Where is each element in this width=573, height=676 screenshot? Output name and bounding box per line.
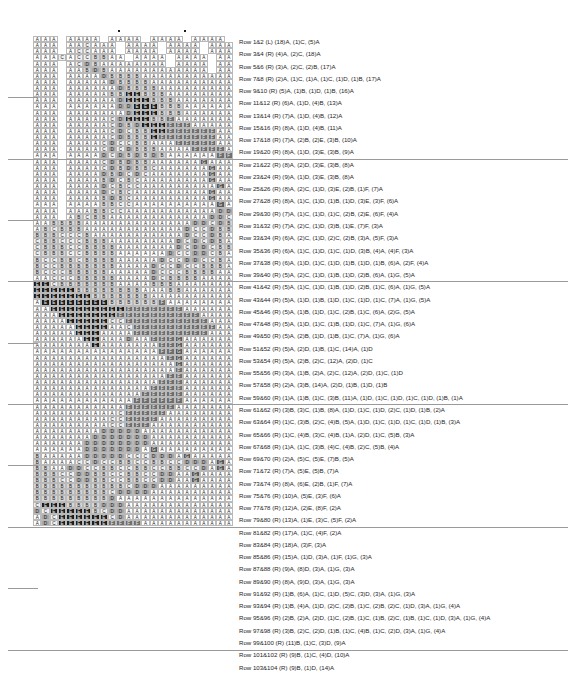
section-divider xyxy=(8,588,38,589)
grid-cell-A[interactable]: A xyxy=(183,520,191,526)
instruction-line: Row 29&30 (R) (7)A, (1)C, (1)D, (1)C, (2… xyxy=(239,208,573,220)
section-divider xyxy=(8,97,38,98)
grid-cell-A[interactable]: A xyxy=(225,520,233,526)
instruction-line: Row 33&34 (R) (6)A, (2)C, (1)D, (2)C, (2… xyxy=(239,232,573,244)
instruction-line: Row 89&90 (R) (8)A, (9)D, (3)A, (1)G, (3… xyxy=(239,576,573,588)
instruction-line: Row 101&102 (R) (9)B, (1)C, (4)D, (10)A xyxy=(239,649,573,661)
instruction-line: Row 43&44 (R) (5)A, (1)D, (1)B, (1)D, (1… xyxy=(239,294,573,306)
grid-row: ADCEEEEEEFFFFAAAAAAAAAAA xyxy=(33,520,233,526)
instruction-line: Row 7&8 (R) (2)A, (1)C, (1)A, (1)C, (1)D… xyxy=(239,73,573,85)
pattern-chart-page: AAAAAAAAAAAAAAAAAAAAAAAACAAAAAAAAAAAAAAA… xyxy=(0,0,573,676)
instruction-line: Row 23&24 (R) (9)A, (1)D, (3)E, (3)B, (8… xyxy=(239,171,573,183)
instruction-list: Row 1&2 (L) (18)A, (1)C, (5)ARow 3&4 (R)… xyxy=(239,36,573,676)
instruction-line: Row 75&76 (R) (10)A, (5)E, (3)F, (6)A xyxy=(239,490,573,502)
grid-cell-E[interactable]: E xyxy=(58,520,66,526)
instruction-line: Row 15&16 (R) (8)A, (1)D, (4)B, (11)A xyxy=(239,122,573,134)
instruction-line: Row 3&4 (R) (4)A, (2)C, (18)A xyxy=(239,48,573,60)
instruction-line: Row 55&56 (R) (3)A, (1)B, (2)A, (2)C, (1… xyxy=(239,367,573,379)
instruction-line: Row 47&48 (R) (5)A, (1)D, (1)C, (1)B, (1… xyxy=(239,318,573,330)
instruction-line: Row 65&66 (R) (1)C, (4)B, (3)C, (4)B, (1… xyxy=(239,429,573,441)
instruction-line: Row 45&46 (R) (5)A, (1)B, (1)D, (1)C, (2… xyxy=(239,306,573,318)
instruction-line: Row 93&94 (R) (1)B, (4)A, (1)D, (2)C, (2… xyxy=(239,600,573,612)
instruction-line: Row 13&14 (R) (7)A, (1)D, (4)B, (12)A xyxy=(239,110,573,122)
instruction-line: Row 35&36 (R) (6)A, (1)C, (1)D, (1)C, (1… xyxy=(239,245,573,257)
instruction-line: Row 51&52 (R) (5)A, (2)D, (1)B, (1)C, (1… xyxy=(239,343,573,355)
grid-cell-D[interactable]: D xyxy=(41,520,49,526)
instruction-line: Row 87&88 (R) (9)A, (8)D, (3)A, (1)G, (3… xyxy=(239,563,573,575)
instruction-line: Row 91&92 (R) (1)B, (6)A, (1)C, (1)D, (5… xyxy=(239,588,573,600)
section-divider xyxy=(8,220,38,221)
instruction-line: Row 63&64 (R) (1)C, (3)B, (2)C, (4)B, (5… xyxy=(239,416,573,428)
instruction-line: Row 17&18 (R) (7)A, (2)B, (2)E, (3)B, (1… xyxy=(239,134,573,146)
instruction-line: Row 69&70 (R) (2)A, (5)C, (5)E, (7)B, (5… xyxy=(239,453,573,465)
instruction-line: Row 97&98 (R) (3)B, (2)C, (2)D, (1)B, (1… xyxy=(239,625,573,637)
instruction-line: Row 59&60 (R) (1)A, (1)B, (1)C, (3)B, (1… xyxy=(239,392,573,404)
grid-cell-A[interactable]: A xyxy=(200,520,208,526)
section-divider xyxy=(8,465,38,466)
instruction-line: Row 77&78 (R) (12)A, (2)E, (8)F, (2)A xyxy=(239,502,573,514)
instruction-line: Row 103&104 (R) (9)B, (1)D, (14)A xyxy=(239,662,573,674)
grid-cell-A[interactable]: A xyxy=(141,520,149,526)
instruction-line: Row 11&12 (R) (6)A, (1)D, (4)B, (13)A xyxy=(239,97,573,109)
grid-cell-A[interactable]: A xyxy=(33,520,41,526)
grid-cell-E[interactable]: E xyxy=(91,520,99,526)
instruction-line: Row 67&68 (R) (1)A, (1)C, (3)B, (4)C, (4… xyxy=(239,441,573,453)
instruction-line: Row 73&74 (R) (8)A, (6)E, (2)B, (1)F, (7… xyxy=(239,478,573,490)
chart-marker-left xyxy=(118,30,120,32)
instruction-line: Row 37&38 (R) (6)A, (1)D, (1)C, (1)D, (1… xyxy=(239,257,573,269)
instruction-line: Row 27&28 (R) (8)A, (1)C, (1)D, (1)B, (1… xyxy=(239,195,573,207)
instruction-line: Row 95&96 (R) (2)B, (2)A, (2)D, (1)C, (2… xyxy=(239,612,573,624)
grid-cell-E[interactable]: E xyxy=(83,520,91,526)
grid-cell-A[interactable]: A xyxy=(175,520,183,526)
instruction-line: Row 99&100 (R) (11)B, (1)C, (3)D, (9)A xyxy=(239,637,573,649)
grid-cell-A[interactable]: A xyxy=(216,520,224,526)
grid-cell-A[interactable]: A xyxy=(158,520,166,526)
instruction-line: Row 21&22 (R) (8)A, (2)D, (3)E, (3)B, (8… xyxy=(239,159,573,171)
section-divider xyxy=(8,343,38,344)
grid-cell-E[interactable]: E xyxy=(66,520,74,526)
grid-cell-F[interactable]: F xyxy=(133,520,141,526)
instruction-line: Row 71&72 (R) (7)A, (5)E, (5)B, (7)A xyxy=(239,465,573,477)
grid-cell-E[interactable]: E xyxy=(100,520,108,526)
instruction-line: Row 1&2 (L) (18)A, (1)C, (5)A xyxy=(239,36,573,48)
grid-cell-C[interactable]: C xyxy=(50,520,58,526)
instruction-line: Row 5&6 (R) (3)A, (2)C, (2)B, (17)A xyxy=(239,61,573,73)
instruction-line: Row 61&62 (R) (3)B, (3)C, (1)B, (8)A, (1… xyxy=(239,404,573,416)
instruction-line: Row 19&20 (R) (8)A, (1)D, (3)E, (3)B, (9… xyxy=(239,146,573,158)
instruction-line: Row 9&10 (R) (5)A, (1)B, (1)D, (1)B, (16… xyxy=(239,85,573,97)
instruction-line: Row 41&42 (R) (5)A, (1)C, (1)D, (1)B, (1… xyxy=(239,281,573,293)
grid-cell-F[interactable]: F xyxy=(108,520,116,526)
instruction-line: Row 85&86 (R) (15)A, (1)D, (3)A, (1)F, (… xyxy=(239,551,573,563)
grid-cell-F[interactable]: F xyxy=(125,520,133,526)
pattern-grid[interactable]: AAAAAAAAAAAAAAAAAAAAAAAACAAAAAAAAAAAAAAA… xyxy=(33,36,233,660)
instruction-line: Row 31&32 (R) (7)A, (2)C, (1)D, (3)B, (1… xyxy=(239,220,573,232)
grid-cell-A[interactable]: A xyxy=(150,520,158,526)
chart-marker-right xyxy=(184,30,186,32)
instruction-line: Row 49&50 (R) (5)A, (2)B, (1)D, (1)B, (1… xyxy=(239,330,573,342)
instruction-line: Row 53&54 (R) (5)A, (2)B, (2)C, (12)A, (… xyxy=(239,355,573,367)
grid-cell-F[interactable]: F xyxy=(116,520,124,526)
grid-cell-A[interactable]: A xyxy=(166,520,174,526)
instruction-line: Row 81&82 (R) (17)A, (1)C, (4)F, (2)A xyxy=(239,527,573,539)
instruction-line: Row 25&26 (R) (8)A, (2)C, (1)D, (3)E, (2… xyxy=(239,183,573,195)
grid-cell-A[interactable]: A xyxy=(208,520,216,526)
instruction-line: Row 83&84 (R) (18)A, (3)F, (3)A xyxy=(239,539,573,551)
grid-cell-E[interactable]: E xyxy=(75,520,83,526)
instruction-line: Row 79&80 (R) (13)A, (1)E, (3)C, (5)F, (… xyxy=(239,514,573,526)
grid-cell-A[interactable]: A xyxy=(191,520,199,526)
instruction-line: Row 57&58 (R) (2)A, (3)B, (14)A, (2)D, (… xyxy=(239,379,573,391)
instruction-line: Row 39&40 (R) (5)A, (2)C, (1)D, (1)B, (1… xyxy=(239,269,573,281)
